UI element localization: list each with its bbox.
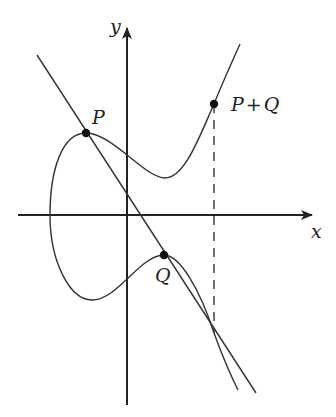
point-q bbox=[160, 251, 168, 259]
point-p-label: P bbox=[91, 106, 106, 128]
y-axis-label: y bbox=[109, 15, 121, 37]
point-sum-label: P+Q bbox=[230, 93, 279, 115]
point-p bbox=[82, 129, 90, 137]
sum-label-plus: + bbox=[246, 93, 262, 115]
secant-line bbox=[37, 55, 256, 393]
sum-label-q: Q bbox=[264, 93, 280, 115]
sum-label-p: P bbox=[230, 93, 245, 115]
x-axis-label: x bbox=[311, 220, 322, 242]
point-q-label: Q bbox=[155, 264, 171, 286]
elliptic-curve-diagram: y x P Q P+Q bbox=[0, 0, 336, 417]
point-p-plus-q bbox=[210, 100, 218, 108]
elliptic-curve bbox=[50, 44, 240, 390]
